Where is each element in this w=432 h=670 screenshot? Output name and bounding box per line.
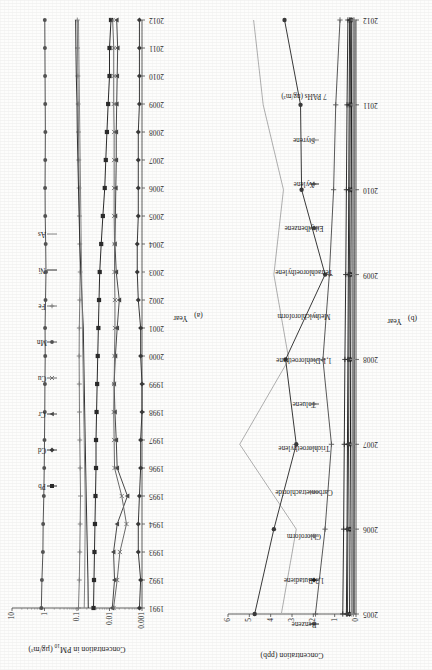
- x-tick-label: 2006: [357, 525, 385, 534]
- data-point: [136, 185, 141, 190]
- legend-item[interactable]: Cr: [12, 396, 55, 432]
- legend-item[interactable]: Cu: [12, 360, 55, 396]
- legend-item[interactable]: 1,3-Butadiene: [222, 558, 317, 602]
- legend-item[interactable]: Pb: [12, 468, 55, 504]
- series-line: [113, 20, 127, 608]
- data-point: [92, 578, 96, 582]
- legend-item[interactable]: Chloroform: [222, 514, 317, 558]
- data-point: [43, 46, 47, 50]
- data-point: [322, 526, 327, 531]
- data-point: [50, 340, 54, 344]
- legend-symbol: [308, 514, 317, 558]
- data-point: [337, 17, 342, 22]
- x-tick-label: 1994: [143, 520, 171, 529]
- x-tick-label: 2008: [143, 128, 171, 137]
- data-point: [312, 622, 317, 627]
- x-axis-title: Year: [387, 317, 401, 326]
- data-point: [97, 298, 101, 302]
- data-point: [94, 466, 98, 470]
- legend-symbol: [308, 162, 317, 206]
- legend-item[interactable]: Trichloroethylene: [222, 426, 317, 470]
- legend-item[interactable]: Ni: [12, 252, 55, 288]
- legend-item[interactable]: Ethylbenzene: [222, 206, 317, 250]
- legend-symbol: [308, 250, 317, 294]
- legend: PbCdCrCuMnFeNiAs: [12, 216, 55, 504]
- legend-label: Trichloroethylene: [278, 444, 329, 452]
- data-point: [95, 382, 99, 386]
- legend-symbol: [308, 382, 317, 426]
- data-point: [312, 534, 317, 539]
- legend-label: Methylchloroform: [277, 312, 330, 320]
- x-tick-label: 2006: [143, 184, 171, 193]
- legend-item[interactable]: Methylchloroform: [222, 294, 317, 338]
- legend-symbol: [308, 558, 317, 602]
- data-point: [94, 438, 98, 442]
- legend-symbol: [46, 252, 55, 288]
- data-point: [104, 158, 108, 162]
- legend-symbol: [46, 324, 55, 360]
- x-tick-label: 2007: [143, 156, 171, 165]
- legend-item[interactable]: 7 PAHs (ng/m³): [222, 74, 317, 118]
- y-tick-label: 0: [351, 618, 360, 648]
- data-point: [312, 138, 317, 143]
- x-tick-label: 2012: [357, 16, 385, 25]
- y-axis-title: Concentration (ppb): [260, 651, 323, 660]
- data-point: [341, 526, 346, 531]
- x-tick-label: 1992: [143, 576, 171, 585]
- data-point: [50, 484, 54, 488]
- y-tick-label: 0.01: [105, 612, 114, 642]
- x-tick-label: 2000: [143, 352, 171, 361]
- legend-label: Cd: [38, 446, 46, 454]
- legend-symbol: [308, 470, 317, 514]
- chart-a-container: 1010.10.010.0011991199219931994199519961…: [6, 12, 214, 664]
- data-point: [136, 129, 141, 134]
- legend-item[interactable]: Fe: [12, 288, 55, 324]
- x-tick-label: 2009: [357, 270, 385, 279]
- data-point: [77, 578, 82, 583]
- data-point: [43, 130, 47, 134]
- legend-label: Carbontetrachloride: [275, 488, 332, 496]
- data-point: [137, 101, 142, 106]
- data-point: [106, 102, 110, 106]
- legend-item[interactable]: Tetrachloroethylene: [222, 250, 317, 294]
- legend-item[interactable]: Cd: [12, 432, 55, 468]
- data-point: [39, 606, 43, 610]
- data-point: [50, 448, 55, 453]
- legend-item[interactable]: Toluene: [222, 382, 317, 426]
- data-point: [136, 157, 141, 162]
- legend: Benzene1,3-ButadieneChloroformCarbontetr…: [222, 74, 317, 646]
- data-point: [342, 357, 347, 362]
- data-point: [101, 214, 105, 218]
- legend-item[interactable]: Carbontetrachloride: [222, 470, 317, 514]
- legend-item[interactable]: Xylene: [222, 162, 317, 206]
- legend-symbol: [46, 432, 55, 468]
- legend-item[interactable]: As: [12, 216, 55, 252]
- data-point: [98, 270, 102, 274]
- legend-item[interactable]: Benzene: [222, 602, 317, 646]
- legend-item[interactable]: Styrene: [222, 118, 317, 162]
- data-point: [107, 46, 111, 50]
- y-axis-title: Concentration in PM10 (µg/m³): [28, 643, 125, 654]
- data-point: [137, 605, 142, 610]
- data-point: [78, 466, 83, 471]
- legend-label: Pb: [38, 482, 46, 490]
- legend-symbol: [308, 118, 317, 162]
- legend-symbol: [46, 396, 55, 432]
- legend-symbol: [46, 288, 55, 324]
- legend-item[interactable]: 1,1-Dichloroethane: [222, 338, 317, 382]
- x-tick-label: 2001: [143, 324, 171, 333]
- y-tick-label: 10: [7, 612, 16, 642]
- series-line: [94, 20, 111, 608]
- data-point: [41, 550, 45, 554]
- data-point: [77, 326, 82, 331]
- x-tick-label: 1996: [143, 464, 171, 473]
- legend-item[interactable]: Mn: [12, 324, 55, 360]
- data-point: [77, 410, 82, 415]
- legend-symbol: [46, 360, 55, 396]
- legend-label: Tetrachloroethylene: [275, 268, 332, 276]
- data-point: [107, 74, 111, 78]
- series-line: [137, 20, 142, 608]
- data-point: [136, 521, 141, 526]
- legend-label: Cu: [38, 374, 46, 382]
- data-point: [137, 73, 142, 78]
